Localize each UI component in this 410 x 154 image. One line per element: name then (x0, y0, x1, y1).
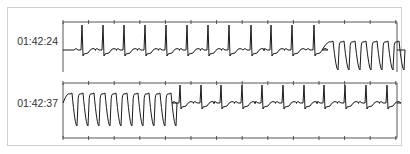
strip-2-trace-sinus (172, 85, 401, 109)
strip-1-trace-tachycardia (322, 41, 405, 70)
strip-2-trace-tachycardia (63, 93, 177, 126)
ecg-chart (0, 0, 410, 154)
strip-1-trace-sinus (63, 25, 328, 56)
